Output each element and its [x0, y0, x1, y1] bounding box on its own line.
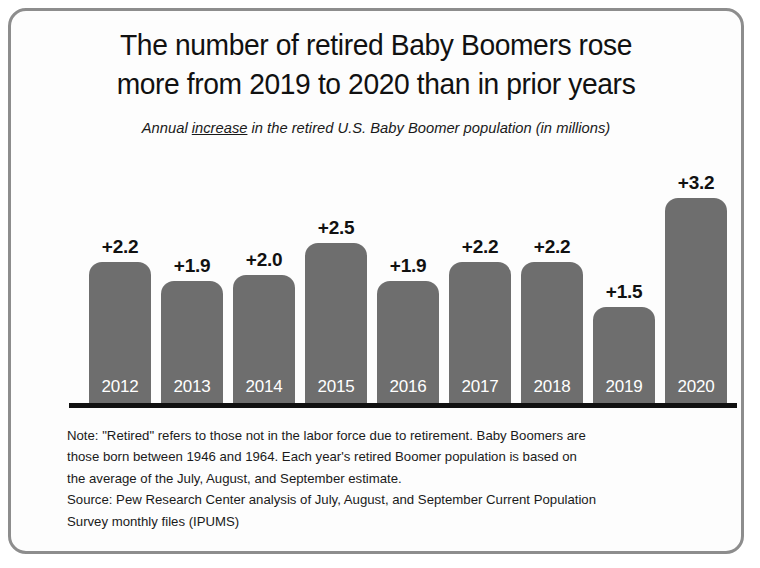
bar-group[interactable]: +1.92013: [161, 281, 223, 403]
chart-footnotes: Note: "Retired" refers to those not in t…: [67, 425, 717, 532]
bar-year-label: 2020: [665, 377, 727, 397]
chart-subtitle-prefix: Annual: [142, 119, 192, 136]
bar-value-label: +1.5: [606, 281, 642, 303]
bar-group[interactable]: +2.02014: [233, 275, 295, 403]
note-line: Note: "Retired" refers to those not in t…: [67, 425, 717, 446]
bar-year-label: 2012: [89, 377, 151, 397]
bar-year-label: 2018: [521, 377, 583, 397]
chart-baseline: [69, 403, 737, 408]
bar-group[interactable]: +2.22017: [449, 262, 511, 403]
bar-year-label: 2014: [233, 377, 295, 397]
bar[interactable]: 2013: [161, 281, 223, 403]
bar[interactable]: 2017: [449, 262, 511, 403]
bar[interactable]: 2020: [665, 198, 727, 403]
bar-value-label: +1.9: [174, 255, 210, 277]
bar-year-label: 2017: [449, 377, 511, 397]
chart-subtitle: Annual increase in the retired U.S. Baby…: [22, 119, 730, 136]
bar-year-label: 2019: [593, 377, 655, 397]
bar-value-label: +2.0: [246, 249, 282, 271]
bar-value-label: +2.2: [102, 236, 138, 258]
bar-group[interactable]: +1.52019: [593, 307, 655, 403]
note-line: the average of the July, August, and Sep…: [67, 468, 717, 489]
bar-group[interactable]: +2.22018: [521, 262, 583, 403]
bar[interactable]: 2015: [305, 243, 367, 403]
bar[interactable]: 2016: [377, 281, 439, 403]
bar-group[interactable]: +3.22020: [665, 198, 727, 403]
bar-value-label: +2.2: [534, 236, 570, 258]
bar-chart-plot: +2.22012+1.92013+2.02014+2.52015+1.92016…: [11, 147, 744, 409]
source-line: Survey monthly files (IPUMS): [67, 511, 717, 532]
bar-value-label: +2.5: [318, 217, 354, 239]
bar-value-label: +2.2: [462, 236, 498, 258]
bar-year-label: 2015: [305, 377, 367, 397]
chart-title: The number of retired Baby Boomers rose …: [11, 25, 741, 103]
bar-value-label: +1.9: [390, 255, 426, 277]
bar-group[interactable]: +2.52015: [305, 243, 367, 403]
bar[interactable]: 2018: [521, 262, 583, 403]
source-line: Source: Pew Research Center analysis of …: [67, 489, 717, 510]
chart-subtitle-suffix: in the retired U.S. Baby Boomer populati…: [247, 119, 610, 136]
note-line: those born between 1946 and 1964. Each y…: [67, 446, 717, 467]
bar-year-label: 2013: [161, 377, 223, 397]
chart-title-line-1: The number of retired Baby Boomers rose: [33, 25, 719, 64]
bar-group[interactable]: +2.22012: [89, 262, 151, 403]
bar[interactable]: 2014: [233, 275, 295, 403]
chart-subtitle-emphasis: increase: [192, 119, 248, 136]
bar[interactable]: 2019: [593, 307, 655, 403]
chart-title-line-2: more from 2019 to 2020 than in prior yea…: [33, 64, 719, 103]
bar[interactable]: 2012: [89, 262, 151, 403]
chart-card: The number of retired Baby Boomers rose …: [8, 8, 744, 554]
bar-value-label: +3.2: [678, 172, 714, 194]
bar-year-label: 2016: [377, 377, 439, 397]
bar-group[interactable]: +1.92016: [377, 281, 439, 403]
